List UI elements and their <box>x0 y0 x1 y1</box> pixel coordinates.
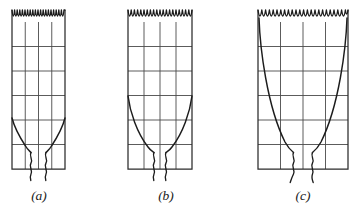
profile-curve-right <box>166 96 192 153</box>
panel-label-b: (b) <box>158 188 174 203</box>
scallop-top-edge <box>258 10 348 16</box>
panel-c-grid <box>258 10 348 169</box>
scallop-top-edge <box>12 10 65 16</box>
profile-curve-left <box>128 96 154 153</box>
profile-curve-right <box>46 118 65 153</box>
panel-label-a: (a) <box>31 188 47 203</box>
figure-canvas: (a) (b) <box>0 0 357 211</box>
panel-label-c: (c) <box>296 188 311 203</box>
profile-curve-left <box>259 18 294 153</box>
panel-a-grid <box>12 10 65 169</box>
break-squiggle-left <box>290 153 294 183</box>
break-squiggle-right <box>45 153 47 181</box>
panel-b: (b) <box>128 10 192 203</box>
panel-b-grid <box>128 10 192 169</box>
profile-curve-right <box>313 18 348 153</box>
profile-curve-left <box>12 118 31 153</box>
figure-container: (a) (b) <box>0 0 357 211</box>
panel-a: (a) <box>12 10 65 203</box>
break-squiggle-left <box>153 153 155 181</box>
panel-c: (c) <box>258 10 348 203</box>
break-squiggle-right <box>312 153 314 183</box>
scallop-top-edge <box>128 10 192 16</box>
break-squiggle-right <box>165 153 167 181</box>
break-squiggle-left <box>30 153 32 181</box>
